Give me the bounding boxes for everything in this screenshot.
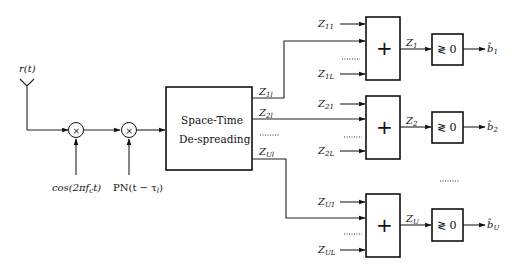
antenna-icon	[20, 79, 34, 130]
pn-code-label: PN(t − τl)	[113, 182, 163, 195]
plus-icon: +	[376, 36, 393, 60]
bu-label: b̂U	[487, 218, 500, 232]
z2-label: Z2	[405, 115, 418, 128]
threshold-label: ≷ 0	[437, 219, 457, 232]
branch-1: + Z11 Z1L Z1 ≷ 0 b̂1	[317, 17, 498, 81]
b1-label: b̂1	[487, 42, 498, 56]
mixer-2: ×	[122, 123, 137, 138]
threshold-label: ≷ 0	[437, 121, 457, 134]
z1L-label: Z1L	[317, 68, 334, 81]
carrier-reference-label: cos(2πfct)	[52, 182, 101, 195]
despreader-label-line2: De-spreading	[179, 133, 251, 145]
z1-label: Z1	[405, 37, 417, 50]
zuL-label: ZUL	[317, 244, 336, 257]
branch-u: + ZU1 ZUL ZU ≷ 0 b̂U	[317, 194, 500, 257]
threshold-label: ≷ 0	[437, 43, 457, 56]
zu-label: ZU	[405, 213, 420, 226]
receiver-block-diagram: r(t) × cos(2πfct) × PN(t − τl) Space-Tim…	[0, 0, 514, 274]
wire-z1l	[252, 41, 365, 98]
input-signal-label: r(t)	[19, 63, 36, 74]
b2-label: b̂2	[487, 120, 498, 134]
space-time-despreading-block: Space-Time De-spreading	[166, 87, 252, 170]
z1l-label: Z1l	[258, 86, 273, 99]
z2L-label: Z2L	[317, 145, 334, 158]
mixer-1: ×	[69, 123, 84, 138]
z11-label: Z11	[317, 18, 334, 31]
z2l-label: Z2l	[258, 107, 273, 120]
plus-icon: +	[376, 213, 393, 237]
wire-zul	[252, 159, 365, 218]
multiply-icon: ×	[126, 126, 134, 136]
zu1-label: ZU1	[317, 196, 335, 209]
despreader-label-line1: Space-Time	[181, 114, 243, 126]
plus-icon: +	[376, 115, 393, 139]
zul-label: ZUl	[258, 146, 274, 159]
z21-label: Z21	[317, 98, 334, 111]
branch-2: + Z21 Z2L Z2 ≷ 0 b̂2	[317, 96, 498, 159]
multiply-icon: ×	[73, 126, 81, 136]
